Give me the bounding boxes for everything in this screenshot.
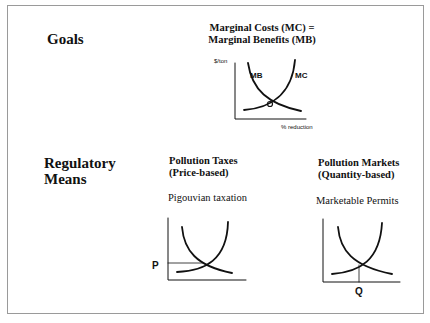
markets-supply-curve [332,223,382,274]
taxes-supply-curve [177,222,228,272]
markets-chart [323,219,400,282]
markets-demand-curve [338,227,392,274]
taxes-axes [168,218,246,280]
taxes-demand-curve [182,227,232,273]
goals-chart [235,60,306,119]
taxes-chart [168,218,246,280]
diagram-graphics [0,0,430,323]
mc-curve [244,60,295,110]
